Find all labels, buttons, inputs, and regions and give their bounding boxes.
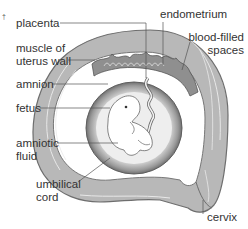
label-muscle-line2: uterus wall <box>16 55 71 68</box>
label-muscle-line1: muscle of <box>16 42 65 55</box>
label-blood-line2: spaces <box>208 44 244 57</box>
label-amniotic-line1: amniotic <box>16 137 59 150</box>
label-amnion: amnion <box>16 78 54 91</box>
label-endometrium: endometrium <box>160 8 227 21</box>
label-blood-line1: blood-filled <box>188 31 244 44</box>
label-fetus: fetus <box>16 102 41 115</box>
label-umbilical-line2: cord <box>36 191 58 204</box>
label-placenta: placenta <box>16 17 59 30</box>
label-cervix: cervix <box>207 211 237 224</box>
label-umbilical-line1: umbilical <box>36 178 81 191</box>
label-amniotic-line2: fluid <box>16 150 37 163</box>
corner-mark: † <box>2 13 6 20</box>
